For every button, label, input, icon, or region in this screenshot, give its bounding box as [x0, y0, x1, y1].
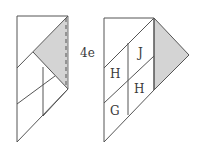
piece-label-j: J — [136, 46, 143, 60]
piece-label-g: G — [110, 104, 120, 118]
left-shaded-triangle — [33, 16, 68, 89]
piece-label-h-right: H — [134, 82, 144, 96]
piece-label-h-left: H — [110, 67, 120, 81]
left-diagonal-4 — [43, 89, 68, 116]
left-diagonal-3 — [17, 76, 55, 104]
diagram-canvas: 4e J H H G — [0, 0, 202, 154]
right-diagonal-1 — [104, 18, 154, 68]
left-figure — [17, 16, 68, 142]
right-shaded-triangle — [154, 18, 189, 90]
step-label: 4e — [80, 46, 95, 60]
